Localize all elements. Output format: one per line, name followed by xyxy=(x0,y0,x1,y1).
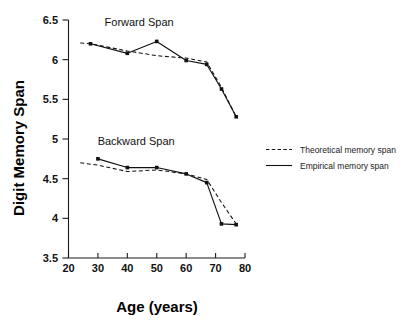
x-tick-label: 50 xyxy=(151,262,163,274)
data-point-marker xyxy=(220,222,224,226)
data-point-marker xyxy=(155,40,159,44)
y-tick-group: 3.544.555.566.5 xyxy=(43,14,69,264)
data-point-marker xyxy=(155,166,159,170)
x-axis-title: Age (years) xyxy=(116,298,198,315)
y-tick-label: 4.5 xyxy=(43,173,58,185)
x-tick-group: 20304050607080 xyxy=(62,253,251,274)
y-tick-label: 5.5 xyxy=(43,93,58,105)
data-point-marker xyxy=(96,157,100,161)
y-tick-label: 4 xyxy=(52,212,59,224)
panel-forward-span xyxy=(80,40,238,119)
chart-figure: 3.544.555.566.5 20304050607080 Forward S… xyxy=(0,0,417,326)
series-line-solid xyxy=(91,41,237,116)
series-layer xyxy=(80,40,238,227)
y-axis-title: Digit Memory Span xyxy=(10,80,27,216)
x-tick-label: 70 xyxy=(209,262,221,274)
x-axis: 20304050607080 xyxy=(62,253,251,274)
legend-label-theoretical: Theoretical memory span xyxy=(300,145,396,155)
x-tick-label: 40 xyxy=(121,262,133,274)
y-tick-label: 3.5 xyxy=(43,252,58,264)
series-line-solid xyxy=(98,159,236,225)
series-line-dashed xyxy=(80,43,236,117)
data-point-marker xyxy=(205,63,209,67)
legend: Theoretical memory span Empirical memory… xyxy=(266,145,396,171)
x-tick-label: 20 xyxy=(62,262,74,274)
series-line-dashed xyxy=(80,163,236,224)
data-point-marker xyxy=(126,166,130,170)
annotation-layer: Forward SpanBackward Span xyxy=(98,16,175,146)
legend-label-empirical: Empirical memory span xyxy=(300,161,389,171)
x-tick-label: 60 xyxy=(180,262,192,274)
y-tick-label: 6 xyxy=(52,54,58,66)
panel-annotation: Forward Span xyxy=(105,16,174,28)
data-point-marker xyxy=(126,52,130,56)
panel-backward-span xyxy=(80,157,238,226)
x-tick-label: 80 xyxy=(239,262,251,274)
y-tick-label: 5 xyxy=(52,133,58,145)
data-point-marker xyxy=(184,59,188,63)
y-axis: 3.544.555.566.5 xyxy=(43,14,69,264)
data-point-marker xyxy=(234,115,238,119)
x-tick-label: 30 xyxy=(92,262,104,274)
y-tick-label: 6.5 xyxy=(43,14,58,26)
panel-annotation: Backward Span xyxy=(98,135,175,147)
data-point-marker xyxy=(205,181,209,185)
digit-memory-span-chart: 3.544.555.566.5 20304050607080 Forward S… xyxy=(0,0,417,326)
